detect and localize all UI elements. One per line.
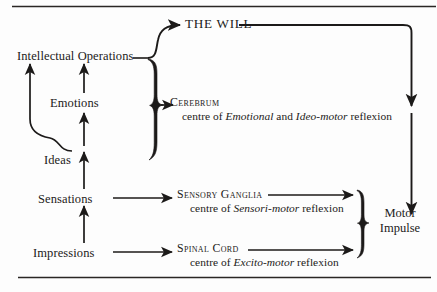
label-the-will: THE WILL (185, 17, 252, 32)
label-intellectual-operations: Intellectual Operations (17, 49, 134, 63)
label-motor-impulse-line-one: Motor (371, 206, 429, 221)
caption-sensory-italic-one: Sensori-motor (234, 202, 300, 214)
caption-cerebrum-conjunction: and (273, 110, 295, 122)
caption-spinal-cord: centre of Excito-motor reflexion (190, 256, 339, 269)
block-cerebrum: Cerebrum centre of Emotional and Ideo-mo… (170, 96, 392, 123)
label-ideas: Ideas (44, 153, 71, 167)
motor-impulse-brace (357, 190, 369, 258)
label-impressions: Impressions (33, 246, 95, 260)
block-sensory-ganglia: Sensory Ganglia centre of Sensori-motor … (177, 188, 344, 215)
caption-sensory-ganglia: centre of Sensori-motor reflexion (190, 202, 344, 215)
caption-sensory-prefix: centre of (190, 202, 234, 214)
caption-cerebrum-suffix: reflexion (348, 110, 392, 122)
label-emotions: Emotions (50, 96, 99, 110)
caption-cerebrum-italic-one: Emotional (226, 110, 274, 122)
caption-spinal-prefix: centre of (190, 256, 234, 268)
label-sensory-ganglia: Sensory Ganglia (177, 188, 344, 201)
caption-cerebrum-prefix: centre of (182, 110, 226, 122)
label-motor-impulse-line-two: Impulse (371, 221, 429, 236)
caption-spinal-italic-one: Excito-motor (234, 256, 295, 268)
label-spinal-cord: Spinal Cord (177, 242, 339, 255)
label-motor-impulse: Motor Impulse (371, 206, 429, 236)
block-spinal-cord: Spinal Cord centre of Excito-motor refle… (177, 242, 339, 269)
label-cerebrum: Cerebrum (170, 96, 392, 109)
caption-spinal-suffix: reflexion (294, 256, 338, 268)
arrow-will-to-motor-impulse (239, 25, 412, 62)
diagram-canvas: Intellectual Operations Emotions Ideas S… (0, 0, 437, 292)
label-sensations: Sensations (38, 192, 92, 206)
caption-cerebrum: centre of Emotional and Ideo-motor refle… (182, 110, 392, 123)
arrow-intellectual-to-will (148, 25, 180, 58)
cerebrum-brace (148, 59, 163, 160)
caption-cerebrum-italic-two: Ideo-motor (296, 110, 348, 122)
caption-sensory-suffix: reflexion (299, 202, 343, 214)
